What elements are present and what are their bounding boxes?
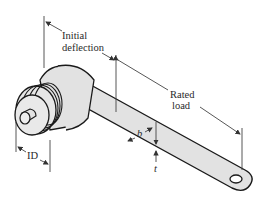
thickness-label: t <box>154 163 158 174</box>
width-label: b <box>137 128 142 139</box>
spring-diagram: Initial deflection Rated load b t ID <box>0 0 266 203</box>
id-label: ID <box>27 150 38 161</box>
spring-reel <box>15 65 94 135</box>
rated-load-label-2: load <box>172 100 191 111</box>
initial-deflection-label-1: Initial <box>62 30 87 41</box>
initial-deflection-label-2: deflection <box>62 42 105 53</box>
rated-load-label-1: Rated <box>170 89 195 100</box>
mounting-hole <box>230 175 242 183</box>
